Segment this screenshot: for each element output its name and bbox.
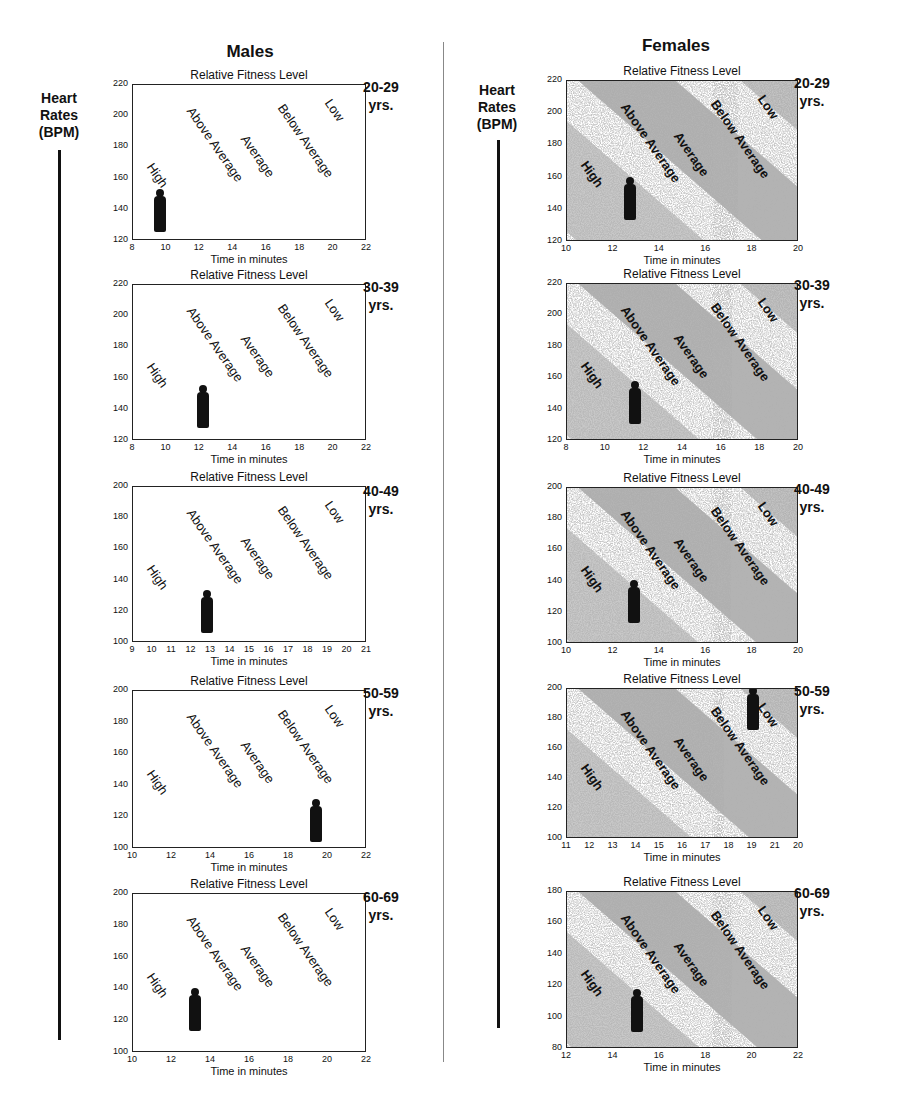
x-tick-label: 13: [200, 644, 220, 654]
x-tick-label: 12: [189, 242, 209, 252]
walker-figure-icon: [629, 388, 641, 424]
x-tick-label: 18: [749, 442, 769, 452]
x-tick-label: 21: [356, 644, 376, 654]
x-tick-label: 14: [222, 242, 242, 252]
x-axis-label: Time in minutes: [132, 453, 366, 465]
zone-label-low: Low: [322, 905, 348, 933]
x-tick-label: 11: [161, 644, 181, 654]
plot-area: HighAbove AverageAverageBelow AverageLow: [566, 891, 798, 1048]
walker-figure-icon: [628, 587, 640, 623]
x-tick-label: 20: [788, 243, 808, 253]
x-tick-label: 22: [356, 442, 376, 452]
x-tick-label: 10: [556, 645, 576, 655]
y-tick-label: 200: [102, 309, 128, 319]
x-tick-label: 18: [742, 645, 762, 655]
males-column-title: Males: [150, 42, 350, 62]
walker-head-icon: [199, 385, 207, 393]
age-range: 40-49: [784, 480, 840, 498]
age-range: 50-59: [353, 684, 409, 702]
y-tick-label: 180: [536, 340, 562, 350]
y-tick-label: 140: [102, 403, 128, 413]
age-range: 20-29: [353, 78, 409, 96]
heart-rate-axis-bar-males: [58, 150, 61, 1040]
x-tick-label: 12: [189, 442, 209, 452]
x-tick-label: 8: [122, 442, 142, 452]
walker-figure-icon: [624, 184, 636, 220]
chart-title: Relative Fitness Level: [566, 672, 798, 686]
x-tick-label: 12: [579, 840, 599, 850]
y-tick-label: 180: [536, 885, 562, 895]
y-tick-label: 180: [102, 340, 128, 350]
x-axis-label: Time in minutes: [566, 656, 798, 668]
age-unit: yrs.: [784, 498, 840, 516]
zone-label-low: Low: [322, 96, 348, 124]
chart-title: Relative Fitness Level: [566, 875, 798, 889]
x-tick-label: 14: [602, 1050, 622, 1060]
chart-title: Relative Fitness Level: [566, 267, 798, 281]
y-tick-label: 180: [102, 919, 128, 929]
x-tick-label: 13: [602, 840, 622, 850]
y-tick-label: 160: [102, 172, 128, 182]
x-axis-label: Time in minutes: [566, 1061, 798, 1073]
chart-title: Relative Fitness Level: [132, 268, 366, 282]
y-tick-label: 180: [102, 511, 128, 521]
x-tick-label: 16: [239, 850, 259, 860]
zone-label-above-average: Above Average: [184, 506, 247, 587]
x-tick-label: 14: [672, 442, 692, 452]
x-tick-label: 20: [788, 645, 808, 655]
plot-area: HighAbove AverageAverageBelow AverageLow: [132, 284, 366, 440]
zone-label-above-average: Above Average: [184, 710, 247, 791]
y-tick-label: 200: [102, 887, 128, 897]
chart-title: Relative Fitness Level: [132, 470, 366, 484]
age-group-label: 50-59yrs.: [353, 684, 409, 720]
x-tick-label: 20: [323, 442, 343, 452]
x-tick-label: 20: [742, 1050, 762, 1060]
x-tick-label: 19: [742, 840, 762, 850]
females-column-title: Females: [576, 36, 776, 56]
x-axis-label: Time in minutes: [566, 254, 798, 266]
zone-label-high: High: [144, 970, 172, 1001]
y-tick-label: 160: [102, 951, 128, 961]
y-tick-label: 160: [102, 542, 128, 552]
x-tick-label: 20: [317, 1054, 337, 1064]
x-tick-label: 20: [323, 242, 343, 252]
walker-figure-icon: [201, 597, 213, 633]
walker-figure-icon: [189, 995, 201, 1031]
age-unit: yrs.: [353, 500, 409, 518]
age-unit: yrs.: [353, 702, 409, 720]
x-tick-label: 16: [711, 442, 731, 452]
y-tick-label: 220: [102, 78, 128, 88]
y-tick-label: 160: [536, 916, 562, 926]
age-group-label: 20-29yrs.: [784, 74, 840, 110]
x-tick-label: 10: [122, 850, 142, 860]
zone-label-high: High: [144, 360, 172, 391]
x-tick-label: 19: [317, 644, 337, 654]
x-tick-label: 12: [161, 1054, 181, 1064]
axis-label-line: Rates: [462, 99, 532, 116]
zone-label-above-average: Above Average: [184, 304, 247, 385]
y-tick-label: 160: [536, 742, 562, 752]
walker-head-icon: [749, 688, 757, 695]
x-tick-label: 12: [633, 442, 653, 452]
zone-label-low: Low: [322, 702, 348, 730]
x-tick-label: 18: [289, 442, 309, 452]
x-tick-label: 21: [765, 840, 785, 850]
y-tick-label: 100: [536, 1011, 562, 1021]
age-range: 60-69: [353, 888, 409, 906]
x-tick-label: 14: [626, 840, 646, 850]
y-tick-label: 180: [102, 716, 128, 726]
x-tick-label: 10: [122, 1054, 142, 1064]
y-tick-label: 120: [536, 802, 562, 812]
x-tick-label: 17: [278, 644, 298, 654]
plot-area: HighAbove AverageAverageBelow AverageLow: [132, 690, 366, 848]
y-tick-label: 140: [536, 772, 562, 782]
y-tick-label: 160: [536, 371, 562, 381]
x-axis-label: Time in minutes: [132, 1065, 366, 1077]
plot-area: HighAbove AverageAverageBelow AverageLow: [566, 688, 798, 838]
walker-head-icon: [626, 177, 634, 185]
y-tick-label: 220: [102, 278, 128, 288]
age-group-label: 50-59yrs.: [784, 682, 840, 718]
x-tick-label: 10: [556, 243, 576, 253]
x-tick-label: 12: [556, 1050, 576, 1060]
y-tick-label: 200: [536, 106, 562, 116]
